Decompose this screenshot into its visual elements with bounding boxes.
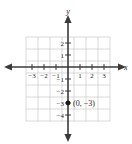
y-axis-arrow-down — [64, 134, 71, 142]
y-axis-arrow-up — [64, 15, 71, 23]
y-tick-label: 2 — [61, 40, 65, 48]
point-label: (0, −3) — [73, 99, 95, 108]
data-point — [66, 101, 71, 106]
x-tick-label: 1 — [78, 72, 82, 80]
x-tick-label: 2 — [90, 72, 94, 80]
coordinate-plane-svg: −3 −2 −1 1 2 3 2 1 −1 −2 −3 −4 y x (0, −… — [0, 0, 132, 144]
x-tick-label: −3 — [28, 72, 36, 80]
y-tick-label: −3 — [57, 100, 65, 108]
x-axis — [4, 63, 126, 70]
x-axis-arrow-left — [4, 63, 12, 70]
y-tick-label: −2 — [57, 88, 65, 96]
y-tick-label: −4 — [57, 112, 65, 120]
y-tick-label: 1 — [61, 52, 65, 60]
x-axis-label: x — [123, 63, 128, 72]
y-axis-label: y — [65, 7, 70, 16]
y-tick-label: −1 — [57, 76, 65, 84]
x-tick-label: 3 — [102, 72, 106, 80]
x-tick-label: −2 — [40, 72, 48, 80]
coordinate-plane-figure: −3 −2 −1 1 2 3 2 1 −1 −2 −3 −4 y x (0, −… — [0, 0, 132, 144]
